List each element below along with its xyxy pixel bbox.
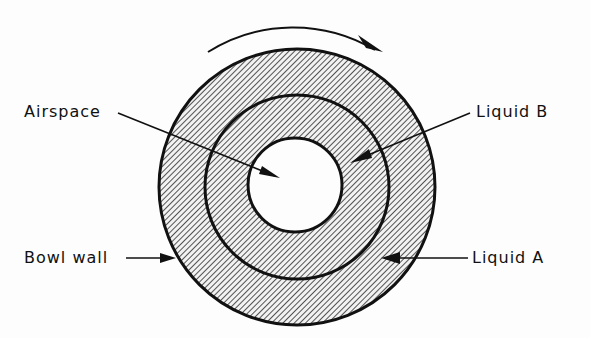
airspace-label: Airspace [24,104,101,120]
diagram-canvas [0,0,590,338]
bowl-wall-label: Bowl wall [24,250,108,266]
bowl-wall-leader-arrow [126,253,176,263]
liquid-a-label: Liquid A [472,250,544,266]
centrifuge-bowl-diagram: Airspace Liquid B Bowl wall Liquid A [0,0,590,338]
liquid-b-label: Liquid B [476,104,548,120]
airspace-circle [248,138,342,232]
